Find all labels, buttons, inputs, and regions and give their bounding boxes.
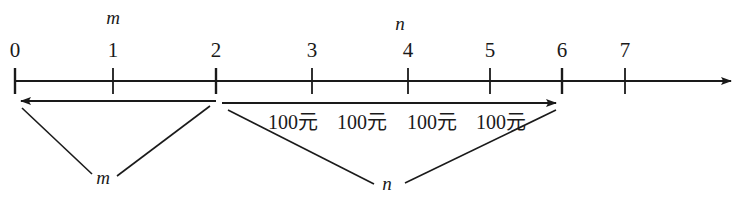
money-label-3: 100元 [407, 112, 457, 132]
tick-label-1: 1 [108, 40, 119, 61]
tick-label-6: 6 [557, 40, 568, 61]
tick-label-0: 0 [10, 40, 21, 61]
n-callout-label: n [382, 174, 392, 193]
diagram-canvas [0, 0, 740, 212]
top-label-n: n [395, 14, 405, 33]
m-callout-label: m [96, 168, 110, 187]
tick-label-3: 3 [307, 40, 318, 61]
number-line-diagram: 01234567 mn 100元100元100元100元 mn [0, 0, 740, 212]
m-callout-leader-1 [22, 108, 92, 174]
money-label-1: 100元 [268, 112, 318, 132]
money-label-2: 100元 [337, 112, 387, 132]
tick-label-4: 4 [403, 40, 414, 61]
tick-label-2: 2 [211, 40, 222, 61]
money-label-4: 100元 [476, 112, 526, 132]
m-callout-leader-2 [117, 106, 210, 176]
tick-label-7: 7 [620, 40, 631, 61]
tick-label-5: 5 [485, 40, 496, 61]
top-label-m: m [106, 8, 120, 27]
